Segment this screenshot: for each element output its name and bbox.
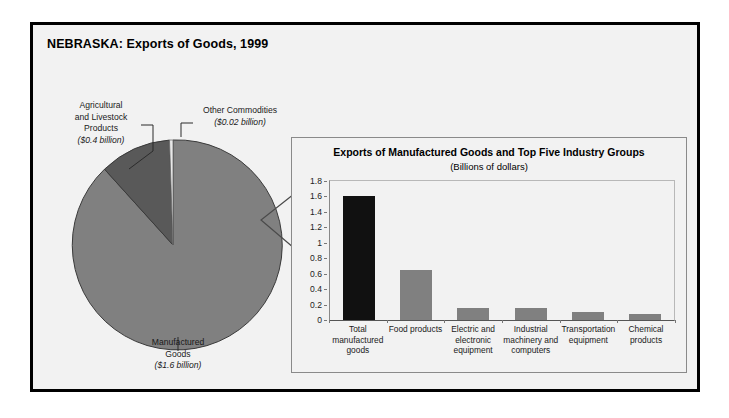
pie-label-agricultural: Agricultural and Livestock Products ($0.… [45,100,157,146]
y-tick-label: 0 [317,315,322,325]
y-tick-mark [324,212,327,213]
y-tick-label: 1 [317,238,322,248]
pie-slice-manufactured [72,140,282,350]
bar-slot [559,181,616,320]
y-tick-mark [324,305,327,306]
pie-label-other-line1: Other Commodities [175,105,305,117]
bar-3[interactable] [515,308,547,320]
y-tick-label: 0.6 [310,269,322,279]
bar-slot [502,181,559,320]
pie-label-manufactured-line1: Manufactured [88,337,268,349]
y-tick-mark [324,320,327,321]
pie-label-agricultural-line2: and Livestock [45,112,157,124]
bar-series [330,181,674,320]
y-tick-label: 1.8 [310,176,322,186]
y-tick-mark [324,181,327,182]
x-tick-mark [387,320,388,323]
bar-slot [330,181,387,320]
x-tick-mark [329,320,330,323]
bar-0[interactable] [343,196,375,320]
x-tick-label-3: Industrial machinery and computers [502,324,560,356]
y-tick-mark [324,289,327,290]
pie-label-agricultural-value: ($0.4 billion) [45,135,157,147]
y-tick-mark [324,196,327,197]
y-tick-mark [324,258,327,259]
figure-frame: NEBRASKA: Exports of Goods, 1999 Agricul… [30,22,700,392]
pie-label-other-value: ($0.02 billion) [175,117,305,129]
y-tick-mark [324,227,327,228]
y-tick-label: 1.4 [310,207,322,217]
y-tick-label: 0.2 [310,300,322,310]
x-tick-mark [617,320,618,323]
y-tick-label: 0.8 [310,253,322,263]
page-title: NEBRASKA: Exports of Goods, 1999 [47,37,268,51]
x-tick-label-5: Chemical products [617,324,675,356]
x-tick-label-2: Electric and electronic equipment [444,324,502,356]
pie-label-manufactured-value: ($1.6 billion) [88,360,268,372]
inset-bar-chart-panel: Exports of Manufactured Goods and Top Fi… [291,137,687,373]
y-axis: 00.20.40.60.811.21.41.61.8 [292,180,327,321]
bar-slot [617,181,674,320]
x-tick-label-0: Total manufactured goods [329,324,387,356]
x-tick-mark [675,320,676,323]
x-tick-mark [560,320,561,323]
x-tick-mark [444,320,445,323]
y-tick-label: 0.4 [310,284,322,294]
y-tick-mark [324,243,327,244]
bar-slot [445,181,502,320]
y-tick-mark [324,274,327,275]
bar-4[interactable] [572,312,604,320]
callout-connector [255,193,295,249]
bar-1[interactable] [400,270,432,320]
plot-area [329,180,675,321]
pie-label-manufactured-line2: Goods [88,349,268,361]
pie-label-other: Other Commodities ($0.02 billion) [175,105,305,128]
inset-chart-subtitle: (Billions of dollars) [292,161,686,172]
inset-chart-title: Exports of Manufactured Goods and Top Fi… [292,146,686,158]
x-axis-labels: Total manufactured goodsFood productsEle… [329,324,675,356]
x-tick-label-4: Transportation equipment [560,324,618,356]
x-tick-mark [502,320,503,323]
y-tick-label: 1.6 [310,191,322,201]
bar-2[interactable] [457,308,489,320]
x-tick-label-1: Food products [387,324,445,356]
pie-label-agricultural-line3: Products [45,123,157,135]
y-tick-label: 1.2 [310,222,322,232]
pie-label-agricultural-line1: Agricultural [45,100,157,112]
pie-label-manufactured: Manufactured Goods ($1.6 billion) [88,337,268,372]
bar-slot [387,181,444,320]
